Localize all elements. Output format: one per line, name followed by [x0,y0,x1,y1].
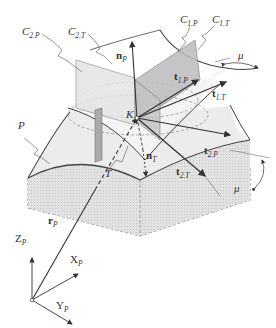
label-t1t: t1.T [212,88,225,102]
label-np: nP [116,50,127,64]
label-c1t: C1.T [212,14,229,28]
label-zp: ZP [15,233,26,247]
surface-contact-diagram [0,0,276,328]
label-surface-p: P [18,120,25,131]
contact-point-k [135,116,139,120]
label-c1p: C1.P [180,14,198,28]
label-c2t: C2.T [68,26,85,40]
label-t2p: t2.P [204,145,218,159]
label-mu-bottom: μ [234,183,240,194]
label-c2p: C2.P [22,26,40,40]
label-point-k: K [126,109,133,120]
label-nt: nT [146,150,156,164]
label-mu-top: μ [238,50,244,61]
label-rp: rP [48,215,57,229]
label-surface-t: T [105,168,111,179]
origin [30,298,34,302]
label-xp: XP [70,254,83,268]
label-t1p: t1.P [174,71,188,85]
label-yp: YP [56,300,69,314]
label-t2t: t2.T [176,166,189,180]
angle-mu-top [215,58,258,68]
